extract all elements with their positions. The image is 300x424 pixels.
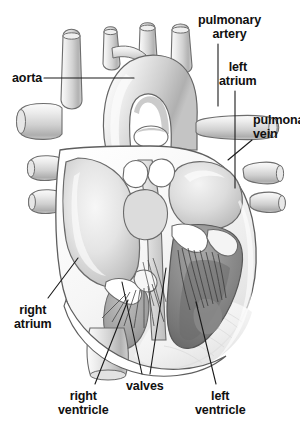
leader-line-pulmonary-vein bbox=[228, 140, 252, 160]
pulmonary-branch-opening bbox=[172, 27, 189, 33]
descending-aorta-opening bbox=[90, 370, 126, 380]
label-right-atrium: right atrium bbox=[14, 303, 52, 331]
label-left-ventricle-line1: left bbox=[195, 389, 246, 403]
label-left-atrium: left atrium bbox=[219, 60, 257, 88]
label-right-ventricle: right ventricle bbox=[58, 389, 109, 417]
label-valves: valves bbox=[126, 379, 164, 393]
label-pulmonary-artery-line1: pulmonary bbox=[198, 13, 261, 27]
svc-opening bbox=[63, 33, 80, 39]
label-pulmonary-vein-line1: pulmona bbox=[253, 113, 300, 127]
label-pulmonary-vein: pulmona vein bbox=[253, 113, 300, 141]
label-pulmonary-artery-line2: artery bbox=[198, 27, 261, 41]
vena-cava-stubs-group bbox=[17, 104, 63, 214]
label-right-ventricle-line1: right bbox=[58, 389, 109, 403]
label-left-atrium-line2: atrium bbox=[219, 74, 257, 88]
label-pulmonary-artery: pulmonary artery bbox=[198, 13, 261, 41]
heart-body-group bbox=[56, 146, 256, 380]
pulmonary-vein-opening-3 bbox=[279, 196, 286, 211]
label-left-atrium-line1: left bbox=[219, 60, 257, 74]
svc-stub-opening bbox=[17, 110, 26, 134]
ivc-stub-opening bbox=[27, 160, 34, 177]
label-aorta: aorta bbox=[12, 71, 42, 85]
heart-anatomy-diagram: aorta pulmonary artery left atrium pulmo… bbox=[0, 0, 300, 424]
label-pulmonary-vein-line2: vein bbox=[253, 127, 300, 141]
label-left-ventricle: left ventricle bbox=[195, 389, 246, 417]
label-right-ventricle-line2: ventricle bbox=[58, 403, 109, 417]
label-right-atrium-line1: right bbox=[14, 303, 52, 317]
right-ventricle-outflow bbox=[124, 190, 168, 240]
carotid-opening bbox=[104, 29, 117, 34]
superior-vena-cava-vessel bbox=[61, 29, 82, 109]
great-vessels-group bbox=[61, 23, 197, 152]
label-right-atrium-line2: atrium bbox=[14, 317, 52, 331]
pulmonary-vein-opening-2 bbox=[276, 166, 283, 182]
valve-cusp-left bbox=[123, 161, 148, 188]
label-aorta-text: aorta bbox=[12, 71, 42, 85]
subclavian-opening bbox=[140, 25, 155, 31]
coronary-sinus-opening bbox=[29, 194, 36, 210]
valve-cusp-right bbox=[148, 159, 175, 187]
label-left-ventricle-line2: ventricle bbox=[195, 403, 246, 417]
label-valves-text: valves bbox=[126, 379, 164, 393]
